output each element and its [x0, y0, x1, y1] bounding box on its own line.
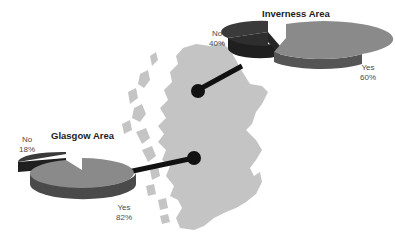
inverness-title: Inverness Area — [262, 8, 330, 19]
glasgow-yes-label: Yes 82% — [112, 203, 136, 223]
inverness-yes-percent: 60% — [354, 73, 382, 83]
scotland-map — [122, 42, 268, 230]
glasgow-title: Glasgow Area — [51, 130, 114, 141]
inverness-no-label: No 40% — [203, 29, 231, 49]
inverness-no-category: No — [203, 29, 231, 39]
glasgow-no-percent: 18% — [16, 145, 38, 155]
inverness-no-percent: 40% — [203, 39, 231, 49]
glasgow-pie-yes-slice — [30, 158, 136, 199]
inverness-yes-label: Yes 60% — [354, 63, 382, 83]
glasgow-yes-category: Yes — [112, 203, 136, 213]
inverness-pie-yes-slice — [274, 21, 393, 69]
glasgow-no-label: No 18% — [16, 135, 38, 155]
chart-canvas — [0, 0, 395, 239]
glasgow-yes-percent: 82% — [112, 213, 136, 223]
inverness-yes-category: Yes — [354, 63, 382, 73]
glasgow-no-category: No — [16, 135, 38, 145]
